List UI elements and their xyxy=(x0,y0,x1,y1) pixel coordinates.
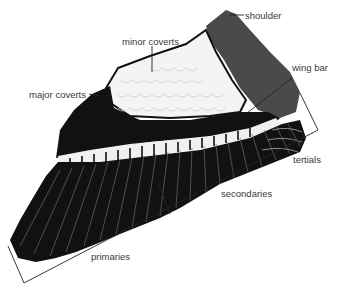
wing-diagram: shoulder minor coverts major coverts win… xyxy=(0,0,338,289)
label-tertials: tertials xyxy=(293,155,321,165)
label-primaries: primaries xyxy=(91,252,130,262)
label-wing-bar: wing bar xyxy=(292,63,328,73)
label-major-coverts: major coverts xyxy=(29,90,86,100)
label-shoulder: shoulder xyxy=(245,11,281,21)
label-secondaries: secondaries xyxy=(221,189,272,199)
label-minor-coverts: minor coverts xyxy=(122,37,179,47)
